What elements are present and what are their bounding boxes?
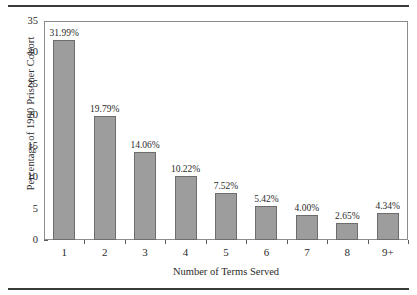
x-axis-tick-label: 1 xyxy=(44,246,84,258)
x-axis-tick-label: 6 xyxy=(246,246,286,258)
x-axis-tick-label: 8 xyxy=(327,246,367,258)
y-axis-tick-label: 5 xyxy=(0,203,38,214)
x-axis-tick-label: 9+ xyxy=(368,246,408,258)
x-axis-tick-label: 5 xyxy=(206,246,246,258)
x-axis-tick-label: 7 xyxy=(287,246,327,258)
bar xyxy=(175,176,197,240)
top-horizontal-rule xyxy=(8,5,409,7)
bar-value-label: 10.22% xyxy=(156,164,216,174)
x-axis-title: Number of Terms Served xyxy=(44,266,408,277)
bottom-horizontal-rule xyxy=(8,288,409,290)
x-axis-tick-mark xyxy=(206,240,207,244)
bar xyxy=(215,193,237,240)
y-axis-tick-label: 35 xyxy=(0,16,38,27)
x-axis-tick-mark xyxy=(408,240,409,244)
bar xyxy=(94,116,116,240)
x-axis-tick-mark xyxy=(246,240,247,244)
x-axis-tick-mark xyxy=(165,240,166,244)
bar xyxy=(336,223,358,240)
y-axis-tick-label: 15 xyxy=(0,141,38,152)
bar xyxy=(296,215,318,240)
bar-value-label: 19.79% xyxy=(75,104,135,114)
x-axis-tick-label: 3 xyxy=(125,246,165,258)
x-axis-tick-mark xyxy=(327,240,328,244)
bar-value-label: 31.99% xyxy=(34,28,94,38)
bar-value-label: 7.52% xyxy=(196,181,256,191)
bar xyxy=(255,206,277,240)
x-axis-tick-mark xyxy=(287,240,288,244)
bar xyxy=(377,213,399,240)
x-axis-tick-mark xyxy=(84,240,85,244)
y-axis-tick-label: 0 xyxy=(0,235,38,246)
x-axis-tick-label: 4 xyxy=(166,246,206,258)
bar-value-label: 2.65% xyxy=(317,211,377,221)
bar xyxy=(134,152,156,240)
x-axis-tick-mark xyxy=(125,240,126,244)
y-axis-tick-label: 25 xyxy=(0,78,38,89)
y-axis-tick-mark xyxy=(44,240,48,241)
bar-value-label: 14.06% xyxy=(115,140,175,150)
y-axis-tick-label: 10 xyxy=(0,172,38,183)
y-axis-tick-label: 20 xyxy=(0,110,38,121)
figure: Percentage of 1990 Prisoner Cohort Numbe… xyxy=(0,0,417,295)
x-axis-tick-label: 2 xyxy=(85,246,125,258)
y-axis-tick-label: 30 xyxy=(0,47,38,58)
bar-value-label: 4.34% xyxy=(358,201,417,211)
x-axis-tick-mark xyxy=(368,240,369,244)
bar xyxy=(53,40,75,240)
